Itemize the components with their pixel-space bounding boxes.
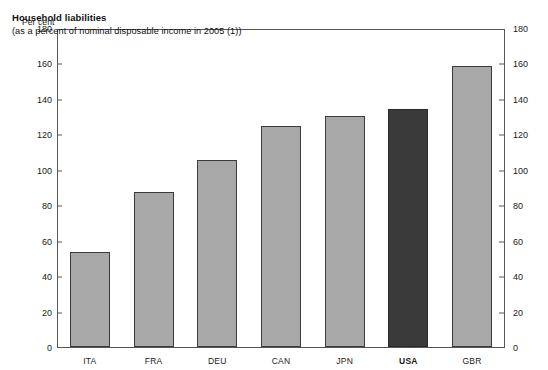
y-axis-tick-label-right: 160: [513, 59, 528, 69]
bar-series: [58, 30, 504, 347]
x-axis-tick-label-jpn: JPN: [336, 356, 353, 366]
y-axis-tick-label-left: 120: [37, 130, 52, 140]
bar-slot-gbr: [441, 30, 504, 347]
bar-deu: [197, 160, 237, 347]
bar-slot-deu: [186, 30, 249, 347]
bar-gbr: [452, 66, 492, 347]
chart-figure: Per cent Household liabilities (as a per…: [0, 0, 548, 370]
x-axis-label-slot: ITA: [58, 350, 121, 368]
y-axis-tick-label-left: 60: [42, 237, 52, 247]
x-axis-tick-label-deu: DEU: [208, 356, 227, 366]
bar-slot-jpn: [313, 30, 376, 347]
y-axis-tick-label-left: 100: [37, 166, 52, 176]
y-axis-tick-label-right: 100: [513, 166, 528, 176]
y-axis-tick-label-left: 160: [37, 59, 52, 69]
bar-jpn: [325, 116, 365, 347]
x-axis-label-slot: DEU: [186, 350, 249, 368]
x-axis-label-slot: GBR: [441, 350, 504, 368]
x-axis-labels: ITAFRADEUCANJPNUSAGBR: [58, 350, 504, 368]
y-axis-tick-label-right: 80: [513, 201, 523, 211]
x-axis-label-slot: FRA: [122, 350, 185, 368]
x-axis-label-slot: JPN: [313, 350, 376, 368]
bar-slot-usa: [377, 30, 440, 347]
y-axis-tick-label-right: 40: [513, 272, 523, 282]
x-axis-tick-label-gbr: GBR: [463, 356, 482, 366]
y-axis-tick-label-right: 20: [513, 308, 523, 318]
y-axis-tick-label-right: 0: [513, 343, 518, 353]
y-axis-tick-label-right: 120: [513, 130, 528, 140]
y-axis-tick-label-right: 140: [513, 95, 528, 105]
y-axis-tick-label-left: 20: [42, 308, 52, 318]
y-axis-tick-label-left: 40: [42, 272, 52, 282]
x-axis-tick-label-usa: USA: [399, 356, 418, 366]
bar-ita: [70, 252, 110, 347]
y-axis-tick-label-left: 180: [37, 24, 52, 34]
y-axis-tick-label-right: 60: [513, 237, 523, 247]
y-axis-tick-label-left: 80: [42, 201, 52, 211]
bar-usa: [388, 109, 428, 348]
x-axis-tick-label-ita: ITA: [83, 356, 96, 366]
bar-slot-ita: [58, 30, 121, 347]
y-axis-tick-label-left: 140: [37, 95, 52, 105]
bar-slot-fra: [122, 30, 185, 347]
bar-fra: [134, 192, 174, 347]
x-axis-label-slot: USA: [377, 350, 440, 368]
y-axis-tick-label-right: 180: [513, 24, 528, 34]
y-axis-tick-label-left: 0: [47, 343, 52, 353]
x-axis-label-slot: CAN: [249, 350, 312, 368]
bar-slot-can: [249, 30, 312, 347]
bar-can: [261, 126, 301, 347]
x-axis-tick-label-can: CAN: [272, 356, 291, 366]
x-axis-tick-label-fra: FRA: [145, 356, 163, 366]
